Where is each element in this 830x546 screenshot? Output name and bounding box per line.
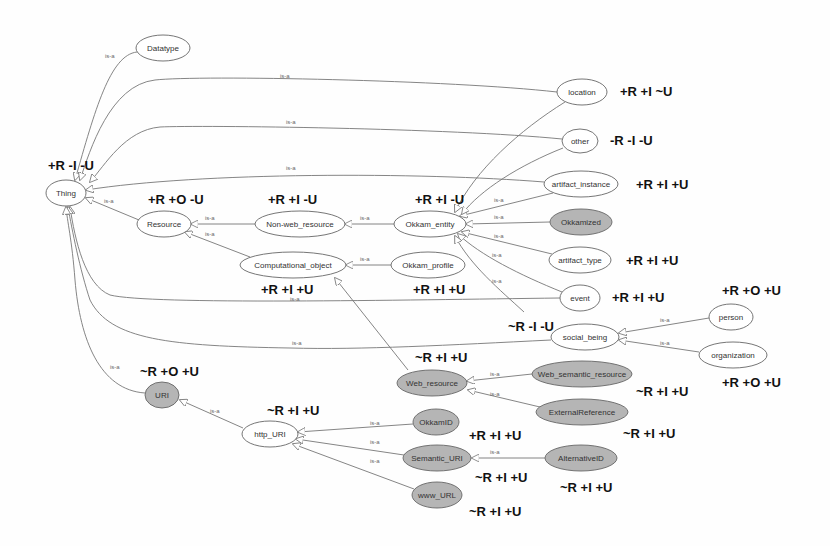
edge-label: is-a — [205, 231, 215, 237]
is-a-arrow — [86, 175, 544, 190]
node-label: social_being — [563, 333, 607, 342]
node-location[interactable]: location — [557, 79, 607, 105]
edge-artifact_instance-to-Okkam_entity: is-a — [460, 193, 553, 216]
edge-label: is-a — [494, 197, 504, 203]
node-label: Web_semantic_resource — [538, 370, 627, 379]
node-label: event — [570, 294, 590, 303]
node-other[interactable]: other — [562, 129, 598, 153]
node-social_being[interactable]: social_being — [551, 324, 619, 350]
edge-location-to-Thing: is-a — [80, 73, 557, 180]
node-AlternativeID[interactable]: AlternativeID — [545, 445, 617, 471]
edge-label: is-a — [360, 215, 370, 221]
annotation-location: +R +I ~U — [620, 84, 672, 99]
node-Thing[interactable]: Thing — [46, 180, 86, 206]
edge-label: is-a — [494, 233, 504, 239]
annotation-OkkamID: +R +I +U — [469, 428, 521, 443]
edge-URI-to-Thing: is-a — [66, 207, 145, 393]
node-Web_semantic_resource[interactable]: Web_semantic_resource — [532, 361, 632, 387]
annotation-person: +R +O +U — [722, 283, 781, 298]
edge-label: is-a — [492, 252, 502, 258]
annotation-artifact_instance: +R +I +U — [636, 177, 688, 192]
annotation-Okkam_entity: +R +I -U — [415, 192, 464, 207]
node-event[interactable]: event — [560, 285, 600, 311]
is-a-arrow — [462, 232, 552, 254]
is-a-arrow — [296, 439, 404, 455]
node-URI[interactable]: URI — [145, 382, 179, 408]
node-label: Non-web_resource — [266, 220, 334, 229]
node-label: Resource — [147, 220, 182, 229]
edge-organization-to-social_being: is-a — [619, 340, 699, 352]
edge-label: is-a — [492, 278, 502, 284]
node-Web_resource[interactable]: Web_resource — [397, 370, 467, 396]
node-Non-web_resource[interactable]: Non-web_resource — [255, 211, 345, 237]
edge-Semantic_URI-to-http_URI: is-a — [296, 439, 404, 455]
node-artifact_instance[interactable]: artifact_instance — [544, 171, 618, 197]
node-ExternalReference[interactable]: ExternalReference — [536, 399, 628, 425]
node-Computational_object[interactable]: Computational_object — [240, 252, 346, 278]
annotation-www_URL: ~R +I +U — [469, 504, 521, 519]
node-label: Datatype — [147, 44, 180, 53]
node-OkkamID[interactable]: OkkamID — [413, 409, 459, 435]
node-Okkam_profile[interactable]: Okkam_profile — [391, 252, 465, 278]
annotation-URI: ~R +O +U — [140, 364, 199, 379]
node-person[interactable]: person — [709, 304, 753, 330]
edge-Web_resource-to-Computational_object — [335, 278, 408, 370]
node-label: Okkam_entity — [406, 220, 455, 229]
annotation-AlternativeID: ~R +I +U — [560, 480, 612, 495]
node-label: www_URL — [417, 491, 456, 500]
edge-label: is-a — [494, 214, 504, 220]
is-a-arrow — [180, 400, 243, 428]
edge-Resource-to-Thing: is-a — [86, 198, 139, 220]
edge-location-to-Okkam_entity — [455, 102, 565, 212]
is-a-arrow — [90, 126, 562, 182]
node-Resource[interactable]: Resource — [137, 211, 191, 237]
edge-Okkamized-to-Okkam_entity: is-a — [466, 214, 550, 224]
edge-Okkam_profile-to-Computational_object: is-a — [346, 256, 391, 265]
node-Datatype[interactable]: Datatype — [136, 35, 190, 61]
annotation-event: +R +I +U — [612, 290, 664, 305]
node-http_URI[interactable]: http_URI — [242, 421, 298, 447]
edge-label: is-a — [292, 340, 302, 346]
node-label: Web_resource — [406, 379, 458, 388]
diagram-canvas: is-ais-ais-ais-ais-ais-ais-ais-ais-ais-a… — [0, 0, 830, 546]
edge-artifact_instance-to-Thing: is-a — [86, 165, 544, 190]
node-label: location — [568, 88, 596, 97]
annotation-Web_semantic_resource: ~R +I +U — [636, 384, 688, 399]
node-label: URI — [155, 391, 169, 400]
node-www_URL[interactable]: www_URL — [412, 482, 462, 508]
edges-layer: is-ais-ais-ais-ais-ais-ais-ais-ais-ais-a… — [66, 52, 709, 489]
is-a-arrow — [335, 278, 408, 370]
is-a-arrow — [185, 232, 250, 257]
is-a-arrow — [293, 444, 414, 489]
edge-label: is-a — [370, 458, 380, 464]
node-Okkam_entity[interactable]: Okkam_entity — [394, 211, 466, 237]
edge-label: is-a — [286, 119, 296, 125]
is-a-arrow — [455, 236, 524, 312]
is-a-arrow — [80, 78, 557, 180]
edge-label: is-a — [490, 449, 500, 455]
node-label: organization — [711, 351, 755, 360]
edge-OkkamID-to-http_URI: is-a — [298, 420, 413, 432]
node-label: other — [571, 137, 590, 146]
edge-label: is-a — [660, 317, 670, 323]
node-label: AlternativeID — [558, 454, 604, 463]
node-Okkamized[interactable]: Okkamized — [550, 209, 612, 235]
edge-label: is-a — [286, 165, 296, 171]
node-Semantic_URI[interactable]: Semantic_URI — [403, 445, 471, 471]
node-organization[interactable]: organization — [699, 342, 767, 368]
edge-label: is-a — [370, 439, 380, 445]
annotation-Resource: +R +O -U — [148, 192, 204, 207]
edge-AlternativeID-to-Semantic_URI: is-a — [472, 449, 545, 458]
edge-label: is-a — [110, 364, 120, 370]
node-label: Thing — [56, 189, 76, 198]
annotation-ExternalReference: ~R +I +U — [623, 426, 675, 441]
ontology-diagram: is-ais-ais-ais-ais-ais-ais-ais-ais-ais-a… — [0, 0, 830, 546]
annotation-Computational_object: +R +I +U — [261, 282, 313, 297]
is-a-arrow — [619, 340, 699, 352]
annotation-organization: +R +O +U — [722, 375, 781, 390]
is-a-arrow — [460, 193, 553, 216]
edge-person-to-social_being: is-a — [619, 317, 709, 333]
edge-label: is-a — [370, 420, 380, 426]
node-artifact_type[interactable]: artifact_type — [549, 247, 611, 273]
annotation-other: -R -I -U — [610, 133, 653, 148]
